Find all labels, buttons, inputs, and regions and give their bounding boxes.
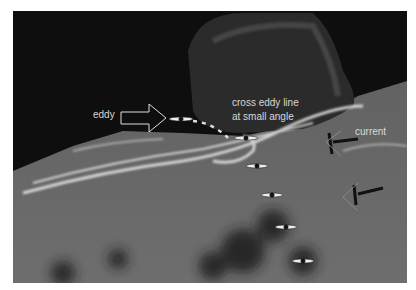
kayak-icon	[275, 225, 297, 229]
river-photo: eddy cross eddy line at small angle curr…	[13, 11, 407, 283]
eddy-label: eddy	[93, 109, 115, 121]
kayak-icon	[169, 117, 193, 121]
kayak-icon	[246, 164, 268, 168]
river-scene	[13, 11, 407, 283]
kayak-icon	[234, 136, 258, 140]
kayak-icon	[261, 193, 283, 197]
current-label: current	[355, 126, 386, 138]
cross-eddy-line-label: cross eddy line	[232, 97, 299, 109]
kayak-icon	[292, 259, 314, 263]
small-angle-label: at small angle	[232, 111, 294, 123]
